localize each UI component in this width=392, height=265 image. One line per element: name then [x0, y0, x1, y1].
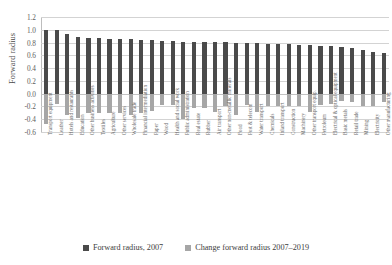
bar-change-forward-radius	[107, 94, 111, 114]
bar-forward-radius-2007	[171, 41, 175, 93]
bar-forward-radius-2007	[361, 50, 365, 93]
bar-forward-radius-2007	[234, 43, 238, 94]
x-axis-category-label: Textiles	[101, 119, 106, 135]
x-axis-category-label: Wholesale trade	[132, 102, 137, 135]
y-axis-tick-label: -0.2	[0, 102, 36, 111]
bar-forward-radius-2007	[350, 48, 354, 94]
legend-label: Forward radius, 2007	[93, 243, 163, 252]
x-axis-category-label: Petroleum	[322, 114, 327, 135]
bar-slot	[55, 17, 59, 132]
bar-slot	[160, 17, 164, 132]
bar-forward-radius-2007	[245, 43, 249, 94]
y-axis-tick-label: 0.8	[0, 39, 36, 48]
bar-forward-radius-2007	[371, 52, 375, 94]
y-axis-tick-label: 0.6	[0, 51, 36, 60]
bar-forward-radius-2007	[192, 42, 196, 94]
x-axis-category-label: Electrical & optical equipment	[333, 72, 338, 135]
x-axis-category-label: Air transport	[217, 109, 222, 135]
x-axis-category-label: Other manufacturing	[386, 92, 391, 135]
bar-forward-radius-2007	[160, 41, 164, 94]
x-axis-category-label: Food	[238, 125, 243, 135]
legend-label: Change forward radius 2007–2019	[195, 243, 309, 252]
y-axis-title: Forward radius	[8, 11, 17, 107]
bar-change-forward-radius	[97, 94, 101, 113]
bar-forward-radius-2007	[213, 42, 217, 94]
x-axis-category-label: Electricity	[375, 114, 380, 135]
bar-slot	[97, 17, 101, 132]
x-axis-category-label: Water transport	[259, 104, 264, 135]
x-axis-category-label: Post & telecom	[248, 104, 253, 135]
bar-change-forward-radius	[318, 94, 322, 106]
bar-forward-radius-2007	[44, 30, 48, 94]
bar-forward-radius-2007	[181, 42, 185, 94]
x-axis-category-label: Mining	[364, 120, 369, 135]
bar-forward-radius-2007	[55, 30, 59, 93]
bar-forward-radius-2007	[255, 43, 259, 93]
y-axis-tick-label: 1.0	[0, 26, 36, 35]
y-axis-tick-label: 0.0	[0, 90, 36, 99]
x-axis-category-label: Wood	[164, 123, 169, 135]
bar-slot	[202, 17, 206, 132]
bar-forward-radius-2007	[202, 42, 206, 94]
x-axis-category-label: Agriculture	[111, 112, 116, 135]
x-axis-category-label: Chemicals	[270, 113, 275, 135]
y-axis-tick-label: 1.2	[0, 13, 36, 22]
bar-forward-radius-2007	[129, 39, 133, 93]
bar-change-forward-radius	[350, 94, 354, 102]
y-axis-tick-label: -0.4	[0, 115, 36, 124]
legend-item-forward-radius-2007: Forward radius, 2007	[83, 243, 163, 252]
x-axis-category-label: Other business activities	[90, 85, 95, 135]
bar-slot	[150, 17, 154, 132]
x-axis-category-label: Hotels and restaurants	[69, 90, 74, 135]
x-axis-category-label: Basic metals	[343, 109, 348, 135]
y-axis-tick-label: -0.6	[0, 128, 36, 137]
x-axis-category-label: Public administration	[185, 91, 190, 135]
x-axis-category-label: Other transport equip.	[312, 90, 317, 135]
bar-forward-radius-2007	[107, 39, 111, 94]
bar-change-forward-radius	[266, 94, 270, 106]
bar-change-forward-radius	[361, 94, 365, 106]
bar-change-forward-radius	[192, 94, 196, 109]
x-axis-category-label: Inland transport	[280, 103, 285, 135]
bar-change-forward-radius	[371, 94, 375, 106]
bar-change-forward-radius	[202, 94, 206, 108]
bar-change-forward-radius	[55, 94, 59, 104]
x-axis-category-label: Financial intermediation	[143, 85, 148, 135]
bar-forward-radius-2007	[287, 44, 291, 93]
legend-swatch-icon	[185, 245, 191, 251]
bar-forward-radius-2007	[65, 34, 69, 94]
x-axis-category-label: Health and social work	[175, 88, 180, 135]
x-axis-category-label: Leather	[59, 119, 64, 135]
bar-change-forward-radius	[287, 94, 291, 107]
bar-change-forward-radius	[234, 94, 238, 115]
x-axis-category-label: Retail trade	[354, 111, 359, 135]
x-axis-category-label: Real estate	[196, 113, 201, 135]
x-axis-category-label: Other services	[122, 106, 127, 135]
x-axis-category-label: Transport equipment	[48, 93, 53, 135]
x-axis-category-label: Construction	[291, 109, 296, 135]
bar-forward-radius-2007	[339, 47, 343, 94]
bar-forward-radius-2007	[276, 44, 280, 94]
x-axis-category-label: Machinery	[301, 113, 306, 135]
bar-forward-radius-2007	[297, 45, 301, 94]
bar-change-forward-radius	[150, 94, 154, 111]
bar-forward-radius-2007	[118, 39, 122, 94]
bar-forward-radius-2007	[266, 44, 270, 94]
y-axis-tick-label: 0.2	[0, 77, 36, 86]
bar-forward-radius-2007	[76, 37, 80, 93]
bar-change-forward-radius	[160, 94, 164, 106]
chart-legend: Forward radius, 2007 Change forward radi…	[0, 243, 392, 252]
x-axis-category-label: Other non-metallic minerals	[227, 78, 232, 135]
x-axis-category-label: Rubber	[206, 120, 211, 135]
y-axis-tick-label: 0.4	[0, 64, 36, 73]
bar-change-forward-radius	[297, 94, 301, 107]
bar-forward-radius-2007	[382, 53, 386, 93]
legend-item-change-forward-radius: Change forward radius 2007–2019	[185, 243, 309, 252]
x-axis-category-label: Education	[80, 114, 85, 135]
y-axis-tick-labels: 1.21.00.80.60.40.20.0-0.2-0.4-0.6	[0, 0, 40, 265]
bar-forward-radius-2007	[308, 45, 312, 94]
bar-slot	[234, 17, 238, 132]
bar-forward-radius-2007	[318, 46, 322, 94]
x-axis-category-label: Paper	[154, 123, 159, 135]
bar-change-forward-radius	[339, 94, 343, 102]
